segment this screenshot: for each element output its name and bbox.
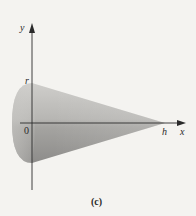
- radius-label: r: [25, 76, 29, 86]
- height-label: h: [162, 127, 167, 137]
- y-axis-label: y: [20, 23, 24, 33]
- cone-figure: y r 0 h x (c): [0, 0, 196, 216]
- cone-diagram-svg: [0, 0, 196, 216]
- figure-caption: (c): [91, 197, 102, 207]
- x-axis-label: x: [180, 127, 184, 137]
- origin-label: 0: [24, 126, 29, 136]
- y-axis-arrow-icon: [29, 23, 35, 33]
